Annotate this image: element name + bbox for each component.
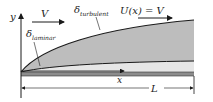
turbulent-leader-line	[96, 17, 100, 30]
x-axis-label: x	[117, 75, 122, 85]
length-label: L	[150, 83, 158, 94]
free-stream-label: V	[41, 8, 50, 19]
delta-turbulent-subscript: turbulent	[80, 10, 109, 17]
flat-plate	[21, 72, 194, 76]
boundary-layer-diagram: y V δ laminar δ turbulent U(x) = V x L	[0, 0, 213, 102]
y-axis-label: y	[9, 11, 16, 22]
delta-laminar-subscript: laminar	[32, 34, 57, 41]
edge-velocity-label: U(x) = V	[120, 5, 166, 16]
